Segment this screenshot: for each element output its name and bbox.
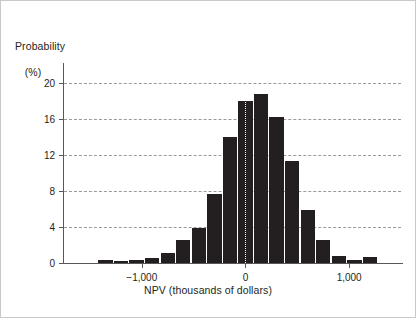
x-axis-tick (245, 263, 246, 268)
histogram-bar (285, 161, 299, 263)
histogram-bar (254, 94, 268, 263)
histogram-bars-group (64, 69, 401, 263)
histogram-bar (207, 194, 221, 263)
histogram-bar (114, 261, 128, 263)
y-axis-title-line2: (%) (15, 66, 65, 79)
x-axis-line (63, 263, 403, 264)
x-axis-tick (142, 263, 143, 268)
histogram-bar (301, 210, 315, 263)
histogram-bar (145, 258, 159, 263)
histogram-bar (98, 260, 112, 263)
y-axis-tick-label: 12 (44, 149, 55, 160)
y-axis-tick-label: 0 (49, 258, 55, 269)
histogram-bar (363, 257, 377, 263)
histogram-bar (223, 137, 237, 263)
x-axis-tick-label: 1,000 (337, 272, 362, 283)
y-axis-tick-label: 20 (44, 77, 55, 88)
x-axis-tick (349, 263, 350, 268)
y-axis-title-line1: Probability (15, 40, 65, 53)
histogram-bar (176, 240, 190, 263)
histogram-bar (316, 240, 330, 263)
chart-figure: Probability (%) 048121620 −1,00001,000 N… (0, 0, 416, 318)
y-axis-tick-label: 8 (49, 185, 55, 196)
x-axis-tick-label: 0 (243, 272, 249, 283)
histogram-bar (192, 228, 206, 263)
plot-area: 048121620 −1,00001,000 (64, 69, 401, 263)
y-axis-tick-label: 4 (49, 221, 55, 232)
histogram-bar (269, 117, 283, 263)
y-axis-tick (59, 263, 64, 264)
histogram-bar (161, 253, 175, 263)
x-axis-tick-label: −1,000 (126, 272, 157, 283)
y-axis-title: Probability (%) (15, 27, 65, 92)
histogram-bar (332, 256, 346, 263)
y-axis-tick-label: 16 (44, 113, 55, 124)
center-reference-line (245, 69, 246, 263)
x-axis-title: NPV (thousands of dollars) (1, 284, 415, 296)
